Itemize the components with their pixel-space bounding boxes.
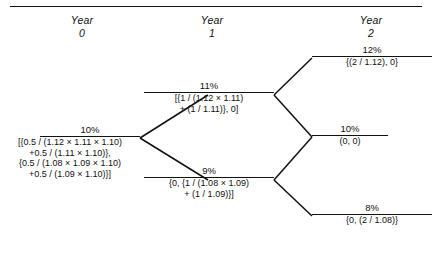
node-year0-payoff-line-3: {0.5 / (1.08 × 1.09 × 1.10) [0,158,140,169]
node-year2-b-rate: 10% [312,123,388,134]
node-year1-11pct: 11% [{1 / (1.12 × 1.11) + (1 / 1.11)}, 0… [144,80,274,114]
node-year0-payoff-line-1: [{0.5 / (1.12 × 1.11 × 1.10) [0,137,140,148]
node-year1-down-payoff: {0, {1 / (1.08 × 1.09) + (1 / 1.09)}] [144,178,274,200]
branch-11pct-to-12pct [274,58,312,95]
node-year2-a-payoff: {(2 / 1.12), 0} [312,57,432,68]
node-year0-payoff-line-4: +0.5 / (1.09 × 1.10)}] [0,169,140,180]
node-year1-up-payoff: [{1 / (1.12 × 1.11) + (1 / 1.11)}, 0] [144,93,274,115]
node-year2-c-payoff: {0, (2 / 1.08)} [312,215,432,226]
node-year2-a-rate: 12% [312,44,432,55]
node-year2-c-rate: 8% [312,202,432,213]
node-year2-b-payoff: (0, 0) [312,136,388,147]
node-year1-up-rate: 11% [144,80,274,91]
node-year2-10pct: 10% (0, 0) [312,123,388,147]
interest-rate-lattice-figure: Year 0 Year 1 Year 2 10% [{0.5 / (1.12 ×… [0,0,432,255]
node-year2-b-payoff-line-1: (0, 0) [312,136,388,147]
node-year1-up-payoff-line-1: [{1 / (1.12 × 1.11) [144,93,274,104]
node-year0-rate: 10% [0,124,140,135]
branch-9pct-to-10pct [274,137,312,180]
node-year1-down-payoff-line-1: {0, {1 / (1.08 × 1.09) [144,178,274,189]
node-year0-payoff: [{0.5 / (1.12 × 1.11 × 1.10) +0.5 / (1.1… [0,137,140,180]
node-year2-8pct: 8% {0, (2 / 1.08)} [312,202,432,226]
branch-9pct-to-8pct [274,180,312,216]
node-year2-a-payoff-line-1: {(2 / 1.12), 0} [312,57,432,68]
node-year0-payoff-line-2: +0.5 / (1.11 × 1.10)}, [0,148,140,159]
node-year1-down-payoff-line-2: + (1 / 1.09)}] [144,189,274,200]
node-year1-down-rate: 9% [144,165,274,176]
node-year2-c-payoff-line-1: {0, (2 / 1.08)} [312,215,432,226]
node-year2-12pct: 12% {(2 / 1.12), 0} [312,44,432,68]
node-year1-up-payoff-line-2: + (1 / 1.11)}, 0] [144,104,274,115]
node-year1-9pct: 9% {0, {1 / (1.08 × 1.09) + (1 / 1.09)}] [144,165,274,199]
node-year0-10pct: 10% [{0.5 / (1.12 × 1.11 × 1.10) +0.5 / … [0,124,140,179]
branch-11pct-to-10pct [274,95,312,137]
